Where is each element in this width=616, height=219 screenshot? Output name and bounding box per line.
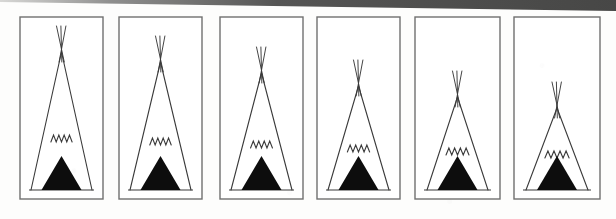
teepee-panel [20, 17, 103, 199]
teepee-panel [119, 17, 202, 199]
teepee-panel [415, 17, 500, 199]
teepee-panel [317, 17, 400, 199]
teepee-panel [514, 17, 600, 199]
teepee-panel-row [0, 0, 616, 219]
figure-canvas [0, 0, 616, 219]
teepee-panel [220, 17, 303, 199]
